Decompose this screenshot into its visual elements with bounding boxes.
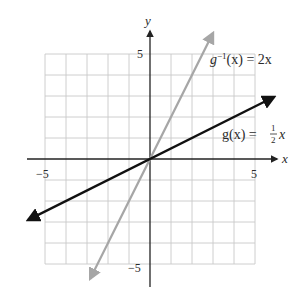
x-tick-pos5: 5 [251,167,257,181]
svg-text:1: 1 [271,123,276,133]
svg-text:2: 2 [271,135,276,145]
inverse-function-annotation: g−1(x) = 2x [210,51,272,68]
inverse-function-line [90,33,213,279]
function-g-annotation: g(x) = 1 2 x [222,123,286,145]
y-axis-label: y [143,13,151,28]
x-axis-label: x [281,151,288,166]
svg-text:x: x [278,127,286,142]
y-tick-pos5: 5 [137,47,143,61]
svg-text:g(x) =: g(x) = [222,127,257,143]
function-graph: x y −5 5 5 −5 g−1(x) = 2x g(x) = 1 2 x [0,0,303,291]
x-tick-neg5: −5 [36,167,49,181]
y-tick-neg5: −5 [128,261,141,275]
